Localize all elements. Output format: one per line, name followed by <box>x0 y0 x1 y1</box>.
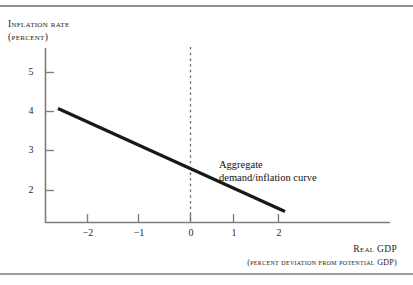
curve-annotation-line2: demand/inflation curve <box>219 171 317 184</box>
curve-annotation: Aggregate demand/inflation curve <box>219 158 317 184</box>
y-tick-label-4: 4 <box>20 106 42 116</box>
y-tick-label-2: 2 <box>20 185 42 195</box>
plot-area <box>0 0 413 285</box>
x-tick-label-2: 2 <box>268 228 290 238</box>
curve-annotation-line1: Aggregate <box>219 158 317 171</box>
x-tick-label-0: 0 <box>180 228 202 238</box>
x-tick-label-minus1: −1 <box>128 228 150 238</box>
y-tick-label-3: 3 <box>20 145 42 155</box>
y-tick-label-5: 5 <box>20 67 42 77</box>
figure-container: Inflation rate (percent) Real GDP (perce… <box>0 0 413 285</box>
x-tick-label-minus2: −2 <box>77 228 99 238</box>
x-tick-label-1: 1 <box>223 228 245 238</box>
